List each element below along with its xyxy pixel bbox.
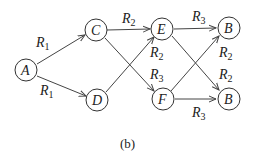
label-c-e: R2 — [121, 11, 136, 28]
svg-text:B: B — [224, 21, 233, 36]
edge-c-e — [107, 29, 150, 30]
node-e: E — [151, 18, 173, 40]
node-b-top: B — [218, 17, 240, 39]
label-d-e: R2 — [149, 45, 164, 62]
label-a-d: R1 — [39, 83, 54, 100]
svg-text:F: F — [157, 92, 167, 107]
label-f-b2: R3 — [191, 105, 206, 122]
label-a-c: R1 — [35, 35, 50, 52]
node-b-bottom: B — [218, 88, 240, 110]
node-d: D — [86, 89, 108, 111]
node-a: A — [15, 59, 37, 81]
svg-text:C: C — [91, 23, 101, 38]
graph-diagram: A C D E F B B R1 R1 R2 R2 R3 R3 R2 R2 R3… — [0, 0, 259, 155]
svg-text:D: D — [91, 93, 102, 108]
node-f: F — [152, 88, 174, 110]
label-e-b2: R2 — [218, 67, 233, 84]
svg-text:E: E — [156, 22, 166, 37]
node-c: C — [85, 19, 107, 41]
svg-text:B: B — [224, 92, 233, 107]
label-e-b1: R3 — [191, 9, 206, 26]
figure-caption: (b) — [120, 136, 135, 151]
svg-text:A: A — [20, 63, 30, 78]
edge-f-b1 — [171, 36, 219, 91]
label-c-f: R3 — [149, 67, 164, 84]
edge-e-b1 — [174, 28, 216, 29]
label-f-b1: R2 — [218, 45, 233, 62]
